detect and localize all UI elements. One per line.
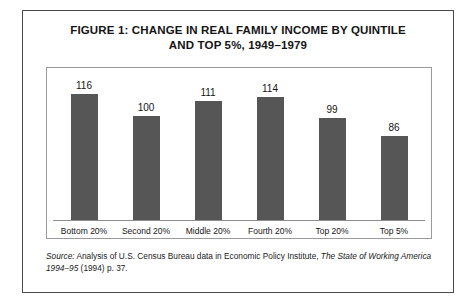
source-note: Source: Analysis of U.S. Census Bureau d… [46, 251, 436, 274]
source-label: Source: [46, 251, 75, 261]
bar-group: 111 [177, 68, 239, 220]
bar [381, 136, 408, 220]
x-tick-label: Top 20% [301, 226, 363, 236]
figure-title-line-2: AND TOP 5%, 1949–1979 [23, 38, 453, 53]
x-axis-tick-labels: Bottom 20% Second 20% Middle 20% Fourth … [53, 221, 425, 240]
bar-value-label: 114 [262, 83, 278, 94]
bar [319, 118, 346, 220]
x-tick-label: Fourth 20% [239, 226, 301, 236]
figure-container: FIGURE 1: CHANGE IN REAL FAMILY INCOME B… [22, 10, 454, 293]
x-tick-label: Second 20% [115, 226, 177, 236]
bar [71, 94, 98, 220]
bar-group: 114 [239, 68, 301, 220]
x-tick-label: Middle 20% [177, 226, 239, 236]
bar-group: 116 [53, 68, 115, 220]
bar-value-label: 99 [326, 104, 337, 115]
x-tick-label: Bottom 20% [53, 226, 115, 236]
chart-inner: 116 100 111 114 99 [47, 68, 431, 238]
source-year-range: 1994–95 [46, 263, 78, 273]
source-text-part-2: (1994) p. 37. [78, 263, 127, 273]
bar-group: 100 [115, 68, 177, 220]
bar [133, 116, 160, 220]
source-text-part-1: Analysis of U.S. Census Bureau data in E… [75, 251, 321, 261]
bar [257, 97, 284, 220]
bar-value-label: 111 [200, 87, 215, 98]
x-tick-label: Top 5% [363, 226, 425, 236]
figure-title: FIGURE 1: CHANGE IN REAL FAMILY INCOME B… [23, 23, 453, 53]
bar-value-label: 100 [138, 102, 155, 113]
bar-group: 86 [363, 68, 425, 220]
bar-series: 116 100 111 114 99 [53, 68, 425, 220]
bar-value-label: 86 [388, 122, 399, 133]
bar-group: 99 [301, 68, 363, 220]
source-publication-title: The State of Working America [321, 251, 431, 261]
bar-value-label: 116 [76, 80, 92, 91]
chart-plot-area: 116 100 111 114 99 [46, 67, 432, 239]
figure-title-line-1: FIGURE 1: CHANGE IN REAL FAMILY INCOME B… [70, 24, 406, 36]
bar [195, 101, 222, 220]
